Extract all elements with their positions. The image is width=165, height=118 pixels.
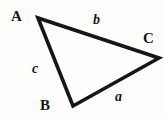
side-label-a: a (115, 90, 122, 104)
vertex-label-b: B (40, 98, 50, 113)
triangle-outline (38, 18, 159, 106)
vertex-label-c: C (143, 31, 154, 46)
triangle-diagram: A B C a b c (0, 0, 165, 118)
side-label-c: c (32, 62, 38, 76)
vertex-label-a: A (11, 9, 22, 24)
triangle-shape (0, 0, 165, 118)
side-label-b: b (93, 13, 100, 27)
